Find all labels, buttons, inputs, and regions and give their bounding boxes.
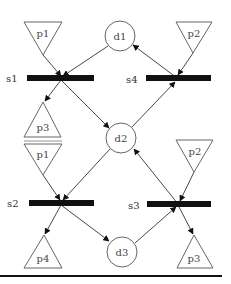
- edge-p2-s3: [180, 172, 194, 201]
- svg-text:p4: p4: [37, 253, 50, 264]
- svg-text:s1: s1: [6, 73, 18, 84]
- svg-text:d3: d3: [116, 247, 129, 258]
- transition-s1: s1: [6, 73, 94, 84]
- resource-p1-top: p1: [24, 22, 62, 55]
- svg-text:p1: p1: [37, 149, 50, 160]
- svg-text:p3: p3: [37, 122, 50, 133]
- place-d1: d1: [105, 21, 135, 51]
- transition-s2: s2: [7, 198, 94, 209]
- edge-s1-d2: [61, 80, 109, 128]
- edge-p2-s4: [178, 53, 193, 75]
- edge-s2-p4: [45, 205, 61, 234]
- resource-p3-bottom: p3: [177, 235, 213, 268]
- svg-text:p3: p3: [188, 253, 201, 264]
- transition-s3: s3: [128, 200, 211, 211]
- svg-text:p1: p1: [37, 28, 50, 39]
- resource-p1-mid: p1: [24, 144, 62, 175]
- edge-p1-s2: [43, 175, 60, 200]
- resource-p3-mid: p3: [24, 102, 61, 137]
- resource-p2-top: p2: [176, 22, 212, 53]
- edge-d2-s2: [63, 149, 110, 200]
- svg-text:d2: d2: [115, 133, 128, 144]
- edge-s2-d3: [61, 205, 109, 241]
- petri-net-diagram: p1 p2 p3 p1 p2 p4 p3 d1 d2 d3 s1: [0, 0, 231, 284]
- edge-d1-s1: [63, 46, 108, 76]
- edge-d2-s4: [132, 82, 175, 127]
- transition-s4: s4: [126, 74, 211, 85]
- svg-text:d1: d1: [114, 31, 127, 42]
- edge-s3-p3: [178, 205, 193, 234]
- svg-text:p2: p2: [188, 28, 201, 39]
- edge-s3-d2: [134, 149, 178, 204]
- svg-text:p2: p2: [189, 146, 202, 157]
- resource-p4-bottom: p4: [24, 235, 62, 268]
- resource-p2-mid: p2: [176, 140, 213, 172]
- edge-s1-p3: [45, 80, 61, 101]
- place-d3: d3: [107, 237, 137, 267]
- svg-text:s2: s2: [7, 198, 19, 209]
- svg-text:s4: s4: [126, 74, 138, 85]
- edge-p1-s1: [43, 55, 61, 76]
- bottom-rule: [0, 275, 222, 277]
- place-d2: d2: [106, 123, 136, 153]
- edge-s4-d1: [133, 45, 177, 78]
- edge-d3-s3: [135, 207, 176, 243]
- svg-text:s3: s3: [128, 200, 140, 211]
